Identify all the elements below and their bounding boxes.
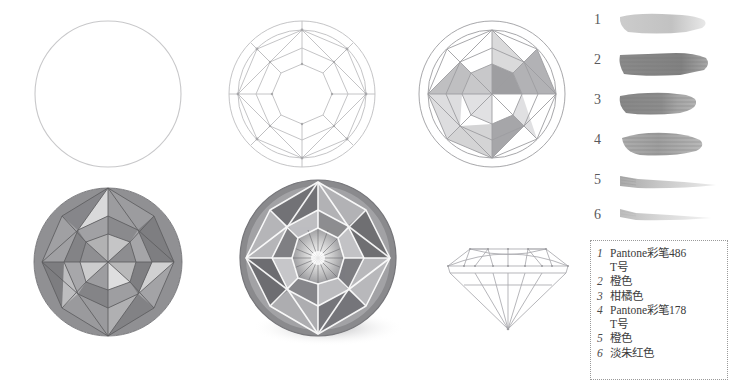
step-3-partial-shading (412, 14, 572, 174)
swatch-row: 5 (592, 168, 730, 202)
legend-label: Pantone彩笔178 T号 (610, 304, 686, 331)
legend-item: 1 Pantone彩笔486 T号 (597, 247, 723, 274)
swatch-stroke-3 (616, 88, 726, 122)
swatch-number: 5 (594, 172, 610, 188)
legend-item: 5 橙色 (597, 332, 723, 346)
step-1-circle-outline (28, 14, 188, 174)
step-4-full-shading (26, 180, 190, 344)
facet-wireframe-drawing (222, 14, 382, 174)
legend-label: Pantone彩笔486 T号 (610, 247, 686, 274)
swatch-stroke-4 (616, 128, 726, 162)
legend-item: 3 柑橘色 (597, 290, 723, 304)
color-legend: 1 Pantone彩笔486 T号 2 橙色 3 柑橘色 4 Pantone彩笔… (590, 240, 728, 380)
legend-index: 1 (597, 247, 610, 261)
legend-index: 4 (597, 304, 610, 318)
swatch-number: 1 (594, 12, 610, 28)
swatch-number: 2 (594, 52, 610, 68)
step-2-facet-wireframe (222, 14, 382, 174)
swatch-number: 4 (594, 132, 610, 148)
swatch-stroke-5 (616, 168, 726, 202)
legend-index: 3 (597, 290, 610, 304)
swatch-row: 6 (592, 203, 730, 237)
color-swatch-chart: 1 2 (592, 8, 730, 230)
swatch-stroke-2 (616, 48, 726, 82)
step-6-side-view-wireframe (430, 236, 586, 340)
step-5-finished-rendering (232, 172, 408, 348)
legend-item: 2 橙色 (597, 275, 723, 289)
swatch-stroke-1 (616, 8, 726, 42)
side-view-drawing (430, 236, 586, 340)
swatch-number: 3 (594, 92, 610, 108)
full-shading-drawing (26, 180, 190, 344)
swatch-row: 1 (592, 8, 730, 42)
legend-index: 2 (597, 275, 610, 289)
legend-index: 5 (597, 332, 610, 346)
legend-label: 柑橘色 (610, 290, 643, 304)
finished-diamond-drawing (232, 172, 408, 348)
legend-item: 6 淡朱红色 (597, 347, 723, 361)
circle-outline-drawing (28, 14, 188, 174)
swatch-row: 3 (592, 88, 730, 122)
swatch-row: 2 (592, 48, 730, 82)
legend-index: 6 (597, 347, 610, 361)
swatch-stroke-6 (616, 203, 726, 237)
swatch-number: 6 (594, 207, 610, 223)
legend-label: 淡朱红色 (610, 347, 654, 361)
swatch-row: 4 (592, 128, 730, 162)
legend-item: 4 Pantone彩笔178 T号 (597, 304, 723, 331)
legend-label: 橙色 (610, 275, 632, 289)
legend-label: 橙色 (610, 332, 632, 346)
partial-shading-drawing (412, 14, 572, 174)
